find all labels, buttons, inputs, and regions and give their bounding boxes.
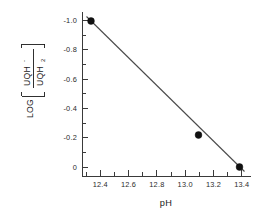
data-point [88,18,95,25]
x-tick-label-2: 12.8 [149,180,164,189]
y-axis-denominator: UQH [35,66,45,86]
data-point [236,164,243,171]
y-axis-title: LOG UQH - UQH 2 [21,44,45,118]
y-tick-label-2: -0.6 [63,75,77,84]
x-tick-label-5: 13.4 [234,180,249,189]
x-tick-label-1: 12.6 [121,180,136,189]
y-axis-numerator-superscript: - [21,60,27,62]
y-axis-denominator-subscript: 2 [40,58,46,62]
scatter-plot: -1.0 -0.8 -0.6 -0.4 -0.2 0 12.4 12.6 12.… [0,0,264,217]
bracket-open-icon [22,92,45,96]
fit-line [87,17,245,172]
y-tick-label-0: -1.0 [63,16,77,25]
y-tick-label-5: 0 [73,163,77,172]
bracket-close-icon [22,44,45,48]
y-tick-label-4: -0.2 [63,133,77,142]
x-tick-label-0: 12.4 [93,180,108,189]
data-point [195,132,202,139]
x-axis-title: pH [160,198,173,208]
y-axis-minor-ticks [82,35,86,152]
y-tick-label-1: -0.8 [63,45,77,54]
y-tick-label-3: -0.4 [63,104,77,113]
y-axis-title-log: LOG [25,99,35,118]
x-tick-label-3: 13.0 [178,180,193,189]
chart-figure: -1.0 -0.8 -0.6 -0.4 -0.2 0 12.4 12.6 12.… [0,0,264,217]
y-axis-numerator: UQH [22,66,32,86]
x-tick-label-4: 13.2 [206,180,221,189]
